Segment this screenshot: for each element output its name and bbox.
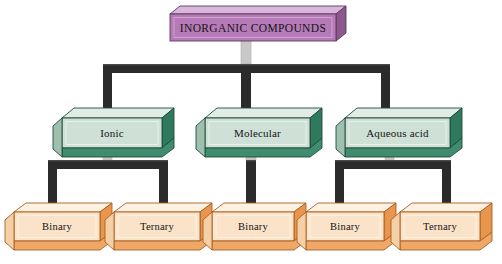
node-molecular-binary-shape[interactable] xyxy=(203,203,306,250)
diagram-canvas: INORGANIC COMPOUNDS Ionic Molecular Aque… xyxy=(0,0,502,264)
node-ionic-shape[interactable] xyxy=(53,108,174,157)
connector-ionic-to-leaves xyxy=(48,160,168,208)
connector-aqueous-to-leaves xyxy=(335,160,451,208)
diagram-graphics xyxy=(0,0,502,264)
stub-root xyxy=(241,38,251,64)
node-inorganic-compounds-shape[interactable] xyxy=(170,6,346,41)
node-ionic-ternary-shape[interactable] xyxy=(105,203,212,250)
node-molecular-shape[interactable] xyxy=(196,108,322,157)
connector-molecular-to-leaf xyxy=(246,160,256,210)
node-aqueous-acid-shape[interactable] xyxy=(336,108,462,157)
connector-root-to-branches xyxy=(103,64,390,109)
node-ionic-binary-shape[interactable] xyxy=(5,203,112,250)
node-aqueous-ternary-shape[interactable] xyxy=(391,203,492,250)
node-aqueous-binary-shape[interactable] xyxy=(297,203,396,250)
